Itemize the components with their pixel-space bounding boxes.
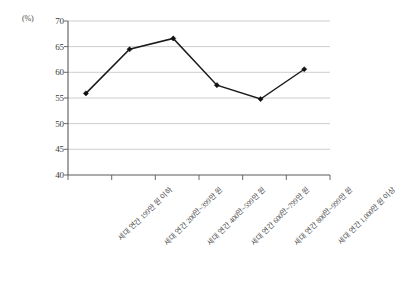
series-line xyxy=(86,38,304,99)
series-markers xyxy=(83,36,307,102)
